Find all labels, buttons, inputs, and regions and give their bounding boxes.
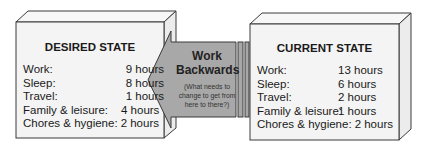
arrow-subtitle: (What needs to change to get from here t… (172, 82, 242, 109)
row-label: Chores & hygiene: (257, 118, 355, 132)
list-item: Family & leisure:1 hours (257, 105, 393, 119)
row-value: 2 hours (355, 118, 393, 132)
list-item: Chores & hygiene:2 hours (23, 117, 164, 131)
list-item: Sleep:6 hours (257, 78, 393, 92)
arrow-subtitle-line: change to get from (172, 91, 242, 100)
row-label: Sleep: (23, 77, 119, 91)
row-label: Travel: (257, 91, 338, 105)
desired-state-title: DESIRED STATE (16, 41, 164, 53)
list-item: Work:13 hours (257, 64, 393, 78)
list-item: Work:9 hours (23, 63, 164, 77)
row-label: Work: (23, 63, 119, 77)
list-item: Sleep:8 hours (23, 77, 164, 91)
list-item: Travel:2 hours (257, 91, 393, 105)
row-label: Family & leisure: (23, 104, 121, 118)
arrow-subtitle-line: here to there?) (172, 100, 242, 109)
row-label: Travel: (23, 90, 119, 104)
row-value: 4 hours (121, 104, 159, 118)
row-label: Family & leisure: (257, 105, 338, 119)
arrow-title: Work Backwards (176, 49, 238, 77)
list-item: Family & leisure:4 hours (23, 104, 164, 118)
arrow-subtitle-line: (What needs to (172, 82, 242, 91)
list-item: Chores & hygiene:2 hours (257, 118, 393, 132)
row-value: 13 hours (338, 64, 383, 78)
row-label: Sleep: (257, 78, 338, 92)
row-label: Chores & hygiene: (23, 117, 121, 131)
row-value: 6 hours (338, 78, 376, 92)
row-value: 2 hours (338, 91, 376, 105)
row-value: 8 hours (119, 77, 164, 91)
row-value: 1 hours (338, 105, 376, 119)
row-value: 9 hours (119, 63, 164, 77)
desired-state-list: Work:9 hours Sleep:8 hours Travel:1 hour… (23, 63, 164, 131)
current-state-list: Work:13 hours Sleep:6 hours Travel:2 hou… (257, 64, 393, 132)
row-value: 1 hours (119, 90, 164, 104)
row-label: Work: (257, 64, 338, 78)
list-item: Travel:1 hours (23, 90, 164, 104)
arrow-title-line: Backwards (176, 63, 238, 77)
current-state-title: CURRENT STATE (250, 42, 399, 54)
row-value: 2 hours (121, 117, 159, 131)
arrow-title-line: Work (176, 49, 238, 63)
